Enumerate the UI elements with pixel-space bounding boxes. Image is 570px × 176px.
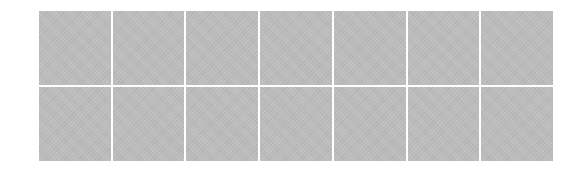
grid-tile-r1-c4[interactable] [260, 11, 332, 85]
grid-tile-r2-c6[interactable] [408, 87, 480, 161]
grid-tile-r1-c2[interactable] [113, 11, 185, 85]
grid-tile-r1-c7[interactable] [481, 11, 553, 85]
grid-tile-r2-c7[interactable] [481, 87, 553, 161]
grid-tile-r2-c1[interactable] [39, 87, 111, 161]
tile-grid [39, 11, 553, 161]
grid-tile-r2-c5[interactable] [334, 87, 406, 161]
grid-tile-r1-c3[interactable] [186, 11, 258, 85]
grid-tile-r2-c3[interactable] [186, 87, 258, 161]
grid-tile-r1-c5[interactable] [334, 11, 406, 85]
grid-tile-r2-c2[interactable] [113, 87, 185, 161]
grid-tile-r2-c4[interactable] [260, 87, 332, 161]
grid-tile-r1-c1[interactable] [39, 11, 111, 85]
grid-tile-r1-c6[interactable] [408, 11, 480, 85]
